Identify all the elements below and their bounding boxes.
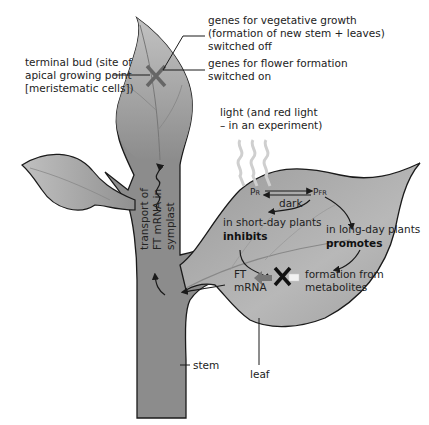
svg-text:apical growing point: apical growing point	[25, 69, 132, 81]
svg-text:dark: dark	[279, 197, 303, 209]
svg-text:terminal bud (site of: terminal bud (site of	[25, 56, 132, 68]
flowering-diagram: terminal bud (site of apical growing poi…	[0, 0, 429, 425]
svg-text:(formation of new stem + leave: (formation of new stem + leaves)	[208, 27, 385, 39]
svg-text:promotes: promotes	[326, 237, 382, 249]
svg-text:inhibits: inhibits	[223, 230, 268, 242]
svg-text:[meristematic cells]): [meristematic cells])	[25, 82, 134, 94]
svg-text:switched off: switched off	[208, 40, 272, 52]
svg-text:in long-day plants: in long-day plants	[326, 223, 420, 235]
svg-text:PR: PR	[250, 187, 260, 197]
leaf	[180, 163, 420, 327]
svg-text:formation from: formation from	[305, 268, 384, 280]
svg-text:FT: FT	[234, 268, 247, 280]
svg-text:genes for vegetative growth: genes for vegetative growth	[208, 14, 357, 26]
svg-text:mRNA: mRNA	[234, 281, 267, 293]
svg-text:FT mRNA in: FT mRNA in	[151, 189, 163, 250]
metabolite-box	[289, 274, 299, 281]
svg-text:switched on: switched on	[208, 70, 271, 82]
svg-text:light (and red light: light (and red light	[220, 106, 318, 118]
svg-text:in short-day plants: in short-day plants	[223, 216, 322, 228]
svg-text:transport of: transport of	[138, 188, 150, 250]
svg-text:stem: stem	[193, 359, 219, 371]
svg-text:genes for flower formation: genes for flower formation	[208, 57, 348, 69]
svg-text:leaf: leaf	[250, 368, 270, 380]
svg-text:metabolites: metabolites	[305, 281, 367, 293]
svg-text:symplast: symplast	[164, 202, 176, 250]
svg-text:PFR: PFR	[313, 187, 327, 197]
svg-text:– in an experiment): – in an experiment)	[220, 119, 322, 131]
